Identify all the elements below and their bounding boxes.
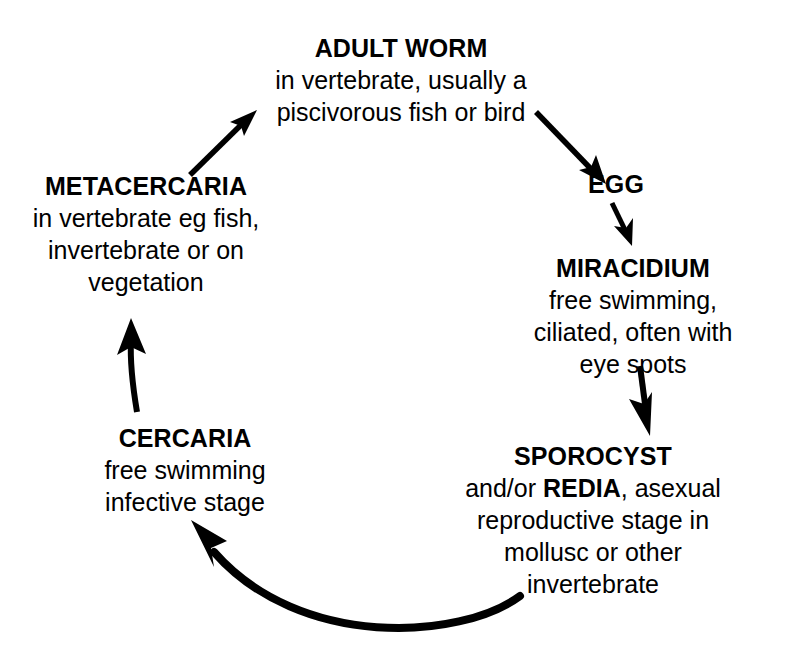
arrow-cercaria-to-metacercaria: [117, 318, 146, 412]
stage-cercaria-title: CERCARIA: [60, 422, 310, 454]
stage-adult-worm-title: ADULT WORM: [246, 32, 556, 64]
stage-sporocyst-line-2: reproductive stage in: [418, 504, 768, 536]
stage-sporocyst-title: SPOROCYST: [418, 440, 768, 472]
arrow-egg-to-miracidium: [612, 203, 633, 246]
stage-metacercaria-line-2: invertebrate or on: [10, 234, 282, 266]
stage-miracidium: MIRACIDIUM free swimming, ciliated, ofte…: [500, 252, 766, 380]
stage-metacercaria-line-3: vegetation: [10, 266, 282, 298]
stage-sporocyst-line-4: invertebrate: [418, 568, 768, 600]
stage-sporocyst-line-1: and/or REDIA, asexual: [418, 472, 768, 504]
stage-cercaria-line-1: free swimming: [60, 454, 310, 486]
stage-adult-worm-line-1: in vertebrate, usually a: [246, 64, 556, 96]
stage-sporocyst-line-3: mollusc or other: [418, 536, 768, 568]
stage-egg: EGG: [556, 168, 676, 200]
stage-miracidium-line-3: eye spots: [500, 348, 766, 380]
stage-miracidium-line-2: ciliated, often with: [500, 316, 766, 348]
stage-miracidium-line-1: free swimming,: [500, 284, 766, 316]
stage-metacercaria-line-1: in vertebrate eg fish,: [10, 202, 282, 234]
stage-metacercaria-title: METACERCARIA: [10, 170, 282, 202]
stage-cercaria: CERCARIA free swimming infective stage: [60, 422, 310, 518]
stage-metacercaria: METACERCARIA in vertebrate eg fish, inve…: [10, 170, 282, 298]
stage-sporocyst: SPOROCYST and/or REDIA, asexual reproduc…: [418, 440, 768, 600]
stage-miracidium-title: MIRACIDIUM: [500, 252, 766, 284]
stage-cercaria-line-2: infective stage: [60, 486, 310, 518]
life-cycle-diagram: ADULT WORM in vertebrate, usually a pisc…: [0, 0, 790, 666]
stage-adult-worm-line-2: piscivorous fish or bird: [246, 96, 556, 128]
stage-adult-worm: ADULT WORM in vertebrate, usually a pisc…: [246, 32, 556, 128]
stage-egg-title: EGG: [556, 168, 676, 200]
